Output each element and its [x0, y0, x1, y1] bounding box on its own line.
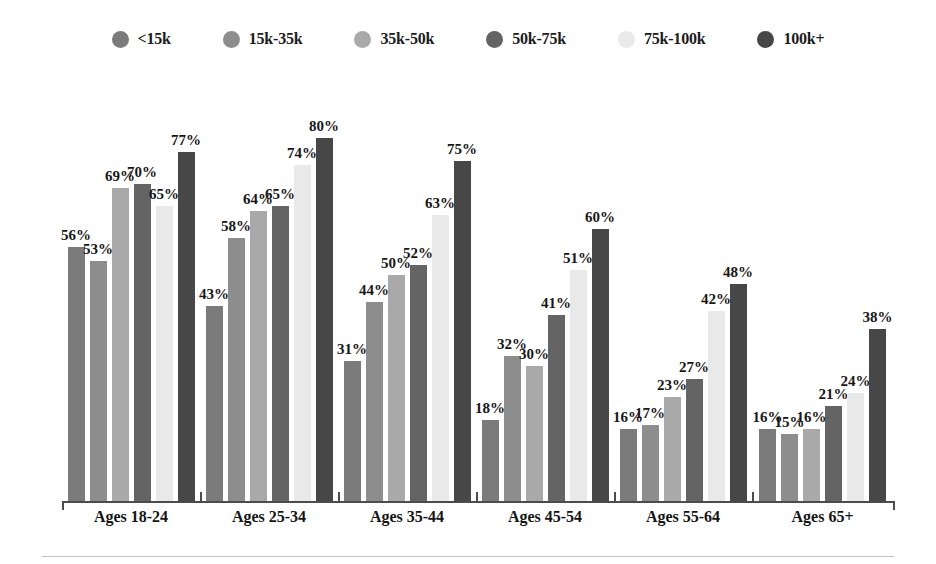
bar-column[interactable]: 74%: [294, 102, 311, 502]
bar-column[interactable]: 69%: [112, 102, 129, 502]
axis-group-divider: [476, 492, 478, 502]
bar-value-label: 27%: [679, 360, 709, 375]
bar-column[interactable]: 15%: [781, 102, 798, 502]
category-label: Ages 25-34: [200, 508, 338, 526]
bar[interactable]: [869, 329, 886, 502]
bar-column[interactable]: 60%: [592, 102, 609, 502]
bar[interactable]: [410, 265, 427, 502]
bar[interactable]: [847, 393, 864, 502]
bar[interactable]: [178, 152, 195, 502]
bar[interactable]: [664, 397, 681, 502]
bar-value-label: 43%: [199, 287, 229, 302]
bar-value-label: 60%: [585, 210, 615, 225]
bar-column[interactable]: 16%: [759, 102, 776, 502]
bar[interactable]: [526, 366, 543, 503]
bar[interactable]: [642, 425, 659, 502]
bar-column[interactable]: 32%: [504, 102, 521, 502]
bar-column[interactable]: 65%: [156, 102, 173, 502]
bar-value-label: 38%: [863, 310, 893, 325]
bar[interactable]: [803, 429, 820, 502]
bar-column[interactable]: 21%: [825, 102, 842, 502]
bar[interactable]: [156, 206, 173, 502]
bar-column[interactable]: 44%: [366, 102, 383, 502]
bar[interactable]: [730, 284, 747, 502]
bar-value-label: 58%: [221, 219, 251, 234]
bar-column[interactable]: 17%: [642, 102, 659, 502]
bar-column[interactable]: 18%: [482, 102, 499, 502]
bar-value-label: 23%: [657, 378, 687, 393]
bar[interactable]: [272, 206, 289, 502]
bar[interactable]: [620, 429, 637, 502]
axis-group-divider: [200, 492, 202, 502]
bar-column[interactable]: 38%: [869, 102, 886, 502]
bar[interactable]: [432, 215, 449, 502]
bar-group: 56%53%69%70%65%77%: [68, 102, 195, 502]
bar-column[interactable]: 42%: [708, 102, 725, 502]
bar-value-label: 30%: [519, 347, 549, 362]
category-label: Ages 65+: [752, 508, 893, 526]
bar-column[interactable]: 48%: [730, 102, 747, 502]
bar-column[interactable]: 56%: [68, 102, 85, 502]
axis-group-divider: [614, 492, 616, 502]
bar-column[interactable]: 16%: [803, 102, 820, 502]
bar[interactable]: [759, 429, 776, 502]
bar-group: 31%44%50%52%63%75%: [344, 102, 471, 502]
bar-value-label: 65%: [265, 187, 295, 202]
bar[interactable]: [294, 165, 311, 502]
bar[interactable]: [548, 315, 565, 502]
bar[interactable]: [228, 238, 245, 502]
bar-column[interactable]: 52%: [410, 102, 427, 502]
bar-column[interactable]: 80%: [316, 102, 333, 502]
bar-value-label: 77%: [171, 133, 201, 148]
bar[interactable]: [250, 211, 267, 502]
bar-column[interactable]: 70%: [134, 102, 151, 502]
bar[interactable]: [592, 229, 609, 502]
bar-column[interactable]: 75%: [454, 102, 471, 502]
bar-column[interactable]: 50%: [388, 102, 405, 502]
bar-value-label: 42%: [701, 292, 731, 307]
bar[interactable]: [316, 138, 333, 502]
bar-column[interactable]: 31%: [344, 102, 361, 502]
bar[interactable]: [708, 311, 725, 502]
bar-value-label: 44%: [359, 283, 389, 298]
bar-column[interactable]: 77%: [178, 102, 195, 502]
bar[interactable]: [90, 261, 107, 502]
bar-column[interactable]: 43%: [206, 102, 223, 502]
bar-value-label: 74%: [287, 146, 317, 161]
bar-column[interactable]: 58%: [228, 102, 245, 502]
bar-value-label: 48%: [723, 265, 753, 280]
bar-column[interactable]: 16%: [620, 102, 637, 502]
category-label: Ages 45-54: [476, 508, 614, 526]
bar[interactable]: [206, 306, 223, 502]
bar[interactable]: [686, 379, 703, 502]
bar[interactable]: [344, 361, 361, 502]
bar[interactable]: [68, 247, 85, 502]
bar-column[interactable]: 24%: [847, 102, 864, 502]
bar-value-label: 17%: [635, 406, 665, 421]
bar[interactable]: [504, 356, 521, 502]
bar-column[interactable]: 51%: [570, 102, 587, 502]
bar-column[interactable]: 64%: [250, 102, 267, 502]
bar[interactable]: [454, 161, 471, 502]
bar[interactable]: [781, 434, 798, 502]
axis-group-divider: [752, 492, 754, 502]
bar-value-label: 18%: [475, 401, 505, 416]
bar-column[interactable]: 27%: [686, 102, 703, 502]
bar-column[interactable]: 30%: [526, 102, 543, 502]
bar-column[interactable]: 41%: [548, 102, 565, 502]
bar[interactable]: [112, 188, 129, 502]
bar[interactable]: [388, 275, 405, 503]
bar[interactable]: [366, 302, 383, 502]
bar-value-label: 41%: [541, 296, 571, 311]
bar-column[interactable]: 53%: [90, 102, 107, 502]
bar-value-label: 51%: [563, 251, 593, 266]
bar[interactable]: [134, 184, 151, 503]
bar-column[interactable]: 65%: [272, 102, 289, 502]
bar-column[interactable]: 63%: [432, 102, 449, 502]
bar[interactable]: [482, 420, 499, 502]
bar-column[interactable]: 23%: [664, 102, 681, 502]
bar[interactable]: [825, 406, 842, 502]
category-label: Ages 55-64: [614, 508, 752, 526]
category-label: Ages 18-24: [62, 508, 200, 526]
bar[interactable]: [570, 270, 587, 502]
